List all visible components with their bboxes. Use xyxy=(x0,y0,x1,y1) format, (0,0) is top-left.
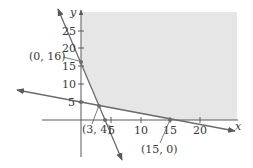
x-tick-20: 20 xyxy=(193,124,207,137)
annotation-3-4-leader xyxy=(92,108,98,124)
annotation-3-4: (3, 4) xyxy=(82,123,112,136)
point-4-0 xyxy=(103,118,107,122)
annotation-15-0: (15, 0) xyxy=(141,143,178,156)
point-3-4 xyxy=(97,104,101,108)
y-tick-25: 25 xyxy=(62,25,76,38)
y-axis-label: y xyxy=(69,6,77,19)
y-tick-5: 5 xyxy=(68,96,75,109)
feasible-region xyxy=(81,12,237,120)
point-0-16 xyxy=(79,60,83,64)
y-tick-10: 10 xyxy=(62,78,76,91)
point-15-0 xyxy=(168,118,172,122)
x-tick-10: 10 xyxy=(134,124,148,137)
x-axis-label: x xyxy=(235,120,242,133)
point-0-5 xyxy=(79,100,83,104)
graph: y x 5 10 15 20 25 5 10 15 20 (0, 16) (3,… xyxy=(0,0,253,168)
annotation-0-16: (0, 16) xyxy=(29,50,66,63)
